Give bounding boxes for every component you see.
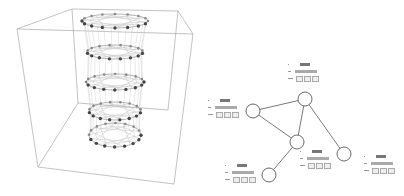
figure-canvas [0,0,404,196]
network-node [99,102,102,105]
label-bullet [364,156,365,157]
node-info-label [300,150,334,170]
network-node [131,142,134,145]
network-node [102,88,105,91]
network-node [135,105,138,108]
network-node [134,86,137,89]
box-vertical-edge [17,29,38,167]
label-bullet [364,163,367,164]
network-node [108,118,111,121]
network-node [113,145,116,148]
label-bullet [288,78,293,79]
network-node [90,47,93,50]
label-box [224,112,231,118]
network-node [139,108,142,111]
network-node [95,142,98,145]
network-node [124,88,127,91]
graph-diagram [246,92,351,182]
graph-node [298,92,312,106]
inter-layer-link [85,23,90,52]
label-title-bar [376,155,386,158]
network-node [119,44,122,47]
graph-node [337,147,351,161]
box-vertical-edge [174,34,193,184]
label-box [241,177,248,183]
network-node [135,114,138,117]
label-bullet [300,151,301,152]
label-bullet [225,165,226,166]
network-node [108,44,111,47]
network-node [92,114,95,117]
label-box [232,112,239,118]
network-node [85,81,88,84]
label-bullet [364,170,369,171]
network-node [108,57,111,60]
network-node [103,73,106,76]
network-node [119,57,122,60]
network-node [141,52,144,55]
network-node [119,101,122,104]
graph-node [290,135,304,149]
label-address-bar [307,157,329,160]
label-box [296,76,303,82]
label-title-bar [237,164,247,167]
label-bullet [208,100,209,101]
graph-edge [260,101,298,110]
box-top-edge [17,9,193,34]
network-node [101,26,104,29]
graph-node [246,104,260,118]
node-info-label [225,164,259,184]
network-layer [85,73,146,92]
label-bullet [300,158,303,159]
inter-layer-link [91,55,92,80]
network-node [126,26,129,29]
label-box [388,168,395,174]
label-box [380,168,387,174]
network-node [114,13,117,16]
inter-layer-link [135,25,139,50]
network-node [83,17,86,20]
graph-edge [274,147,293,169]
network-node [99,117,102,120]
network-node [93,75,96,78]
network-node [92,105,95,108]
network-node [114,73,117,76]
network-node [137,47,140,50]
label-bullet [225,172,228,173]
network-node [93,86,96,89]
network-node [96,125,99,128]
network-node [86,83,89,86]
inter-layer-link [87,24,91,50]
network-node [104,123,107,126]
node-info-label [364,155,398,175]
label-box [308,163,315,169]
inter-layer-link [139,55,140,80]
network-node [90,129,93,132]
network-node [124,123,127,126]
network-node [113,88,116,91]
network-node [132,125,135,128]
network-node [134,75,137,78]
network-node [139,133,142,136]
label-title-bar [300,63,310,66]
network-node [90,54,93,57]
network-node [103,144,106,147]
network-node [86,52,89,55]
label-bullet [300,165,305,166]
label-box [249,177,256,183]
inter-layer-link [105,89,106,107]
label-address-bar [371,162,393,165]
label-box [216,112,223,118]
graph-node [262,168,276,182]
3d-network-plot [17,9,193,184]
graph-edge [309,105,340,149]
network-node [144,22,147,25]
network-node [142,80,145,83]
label-address-bar [232,171,254,174]
network-node [137,15,140,18]
network-node [126,13,129,16]
box-back-edge [78,103,168,110]
network-node [139,111,142,114]
network-node [86,49,89,52]
network-node [87,78,90,81]
